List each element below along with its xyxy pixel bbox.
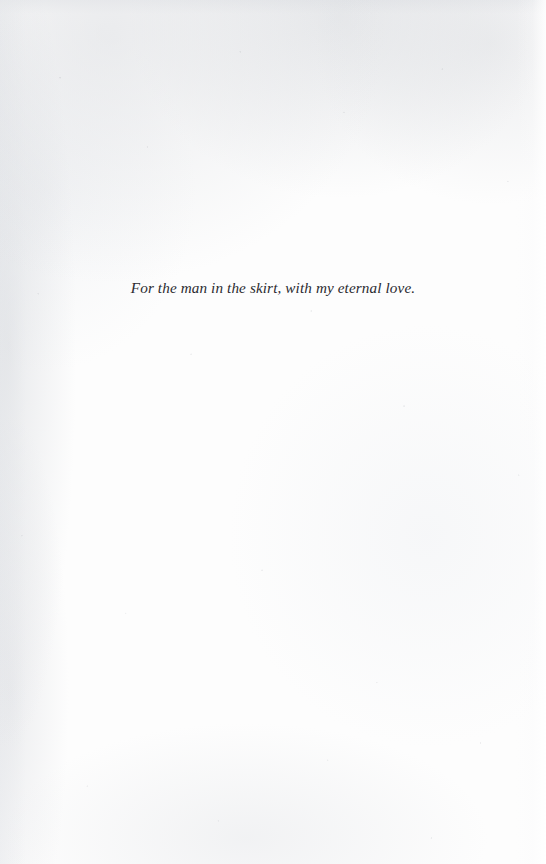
dedication-text: For the man in the skirt, with my eterna… — [0, 278, 546, 298]
page-content: For the man in the skirt, with my eterna… — [0, 0, 546, 864]
book-page: For the man in the skirt, with my eterna… — [0, 0, 546, 864]
